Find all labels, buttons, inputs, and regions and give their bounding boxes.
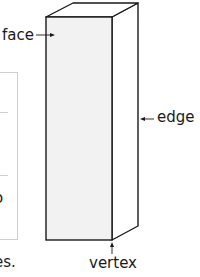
vertex-arrowhead-icon: [110, 242, 114, 247]
front-face: [46, 17, 112, 240]
edge-arrowhead-icon: [140, 117, 145, 121]
edge-label: edge: [157, 110, 195, 125]
cut-off-sentence-text: es.: [0, 255, 16, 270]
side-face: [112, 3, 138, 240]
face-label: face: [2, 28, 34, 43]
vertex-label: vertex: [89, 256, 137, 271]
